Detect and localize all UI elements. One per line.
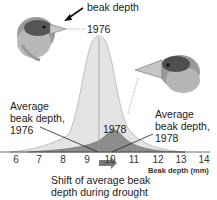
avg-1976-line3: 1976 <box>10 124 33 136</box>
tick-14: 14 <box>197 154 211 165</box>
year-1976-label: 1976 <box>87 23 110 35</box>
tick-12: 12 <box>151 154 165 165</box>
finch-head-large-beak-icon <box>135 55 200 93</box>
avg-1978-line3: 1978 <box>155 132 178 144</box>
shift-caption-line1: Shift of average beak <box>51 174 150 186</box>
tick-8: 8 <box>56 154 70 165</box>
tick-6: 6 <box>9 154 23 165</box>
avg-1978-line2: beak depth, <box>155 120 210 132</box>
tick-10: 10 <box>103 154 117 165</box>
tick-9: 9 <box>80 154 94 165</box>
pointer-arrow-head-icon <box>64 14 72 21</box>
tick-13: 13 <box>174 154 188 165</box>
tick-7: 7 <box>32 154 46 165</box>
year-1978-label: 1978 <box>103 123 126 135</box>
avg-1976-line1: Average <box>10 100 49 112</box>
beak-depth-label: beak depth <box>87 1 139 13</box>
shift-caption-line2: depth during drought <box>51 186 148 198</box>
finch-head-small-beak-icon <box>17 17 66 60</box>
tick-11: 11 <box>127 154 141 165</box>
avg-1976-line2: beak depth, <box>10 112 65 124</box>
x-axis-title: Beak depth (mm) <box>148 166 209 175</box>
avg-1978-line1: Average <box>155 108 194 120</box>
